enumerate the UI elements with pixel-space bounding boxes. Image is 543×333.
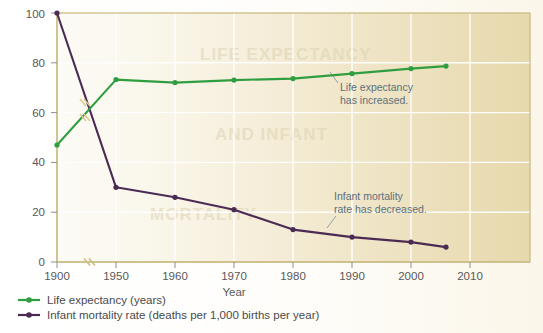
showthrough-line-3: MORTALITY — [150, 205, 257, 224]
data-point — [54, 142, 59, 147]
data-point — [443, 245, 448, 250]
y-tick-label-100: 100 — [26, 8, 45, 20]
x-tick-label-1960: 1960 — [162, 270, 188, 282]
annotation-life-expectancy: Life expectancy has increased. — [340, 81, 414, 106]
data-point — [349, 235, 354, 240]
data-point — [408, 240, 413, 245]
life-expectancy-infant-mortality-chart: LIFE EXPECTANCY AND INFANT MORTALITY — [0, 0, 543, 333]
annotation-life-expectancy-line-2: has increased. — [340, 94, 408, 106]
data-point — [54, 10, 59, 15]
x-tick-label-2000: 2000 — [398, 270, 424, 282]
x-tick-label-1990: 1990 — [339, 270, 365, 282]
data-point — [231, 207, 236, 212]
x-tick-label-1970: 1970 — [221, 270, 247, 282]
annotation-infant-mortality-line-2: rate has decreased. — [334, 203, 427, 215]
y-tick-label-20: 20 — [32, 206, 45, 218]
legend-marker-life-expectancy-icon — [26, 297, 32, 303]
chart-figure: LIFE EXPECTANCY AND INFANT MORTALITY — [0, 0, 543, 333]
x-tick-label-2010: 2010 — [457, 270, 483, 282]
plot-area: LIFE EXPECTANCY AND INFANT MORTALITY — [57, 13, 530, 262]
showthrough-line-1: LIFE EXPECTANCY — [200, 45, 371, 64]
data-point — [231, 78, 236, 83]
y-tick-label-0: 0 — [39, 256, 45, 268]
data-point — [349, 71, 354, 76]
y-tick-label-60: 60 — [32, 107, 45, 119]
data-point — [172, 195, 177, 200]
x-axis-title: Year — [222, 286, 245, 298]
x-tick-label-1980: 1980 — [280, 270, 306, 282]
legend-item-infant-mortality[interactable]: Infant mortality rate (deaths per 1,000 … — [18, 309, 319, 321]
y-tick-label-80: 80 — [32, 57, 45, 69]
y-tick-label-40: 40 — [32, 156, 45, 168]
data-point — [172, 80, 177, 85]
data-point — [290, 76, 295, 81]
data-point — [113, 77, 118, 82]
annotation-life-expectancy-line-1: Life expectancy — [340, 81, 414, 93]
annotation-infant-mortality-line-1: Infant mortality — [334, 190, 404, 202]
showthrough-line-2: AND INFANT — [215, 125, 328, 144]
x-tick-label-1900: 1900 — [44, 270, 70, 282]
data-point — [290, 227, 295, 232]
x-tick-label-1950: 1950 — [103, 270, 129, 282]
data-point — [443, 64, 448, 69]
legend-marker-infant-mortality-icon — [26, 312, 32, 318]
data-point — [408, 66, 413, 71]
legend-label-infant-mortality: Infant mortality rate (deaths per 1,000 … — [47, 309, 319, 321]
data-point — [113, 185, 118, 190]
legend-label-life-expectancy: Life expectancy (years) — [47, 294, 166, 306]
